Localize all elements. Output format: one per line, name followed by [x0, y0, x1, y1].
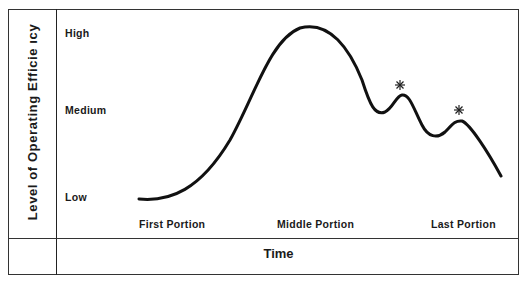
- efficiency-curve: [0, 0, 527, 285]
- asterisk-marker-2: [454, 105, 464, 115]
- asterisk-marker-1: [395, 80, 405, 90]
